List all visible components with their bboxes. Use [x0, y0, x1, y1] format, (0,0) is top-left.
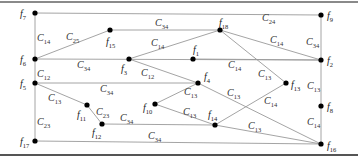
edge-label: C34	[155, 17, 169, 30]
edge-label: C14	[307, 116, 321, 129]
edge-label-subscript: 13	[255, 126, 262, 133]
node-label-subscript: 4	[207, 77, 211, 84]
node-label: f3	[121, 63, 127, 76]
node-f12	[99, 121, 104, 126]
edge-label-subscript: 23	[44, 122, 51, 129]
edge-label: C25	[66, 31, 79, 44]
edge-label: C13	[227, 87, 240, 100]
edge-label-subscript: 13	[191, 92, 198, 99]
edge-label: C34	[120, 112, 134, 125]
node-label-subscript: 13	[294, 85, 301, 92]
node-label-subscript: 15	[109, 42, 116, 49]
edge-label-subscript: 14	[277, 40, 284, 47]
edge-label: C23	[96, 106, 109, 119]
edge-f12-f14	[102, 124, 215, 125]
edge-label-subscript: 24	[269, 18, 276, 25]
node-f3	[126, 56, 131, 61]
node-label-subscript: 2	[330, 61, 333, 68]
node-label-subscript: 11	[80, 115, 86, 122]
edge-label-subscript: 13	[190, 112, 197, 119]
edge-layer	[35, 13, 321, 144]
node-label: f5	[20, 78, 26, 91]
edge-label-subscript: 13	[234, 93, 241, 100]
edge-label-subscript: 13	[265, 74, 272, 81]
node-label: f13	[291, 79, 300, 92]
edge-label: C13	[48, 92, 61, 105]
edge-label-subscript: 13	[314, 86, 321, 93]
node-label-subscript: 14	[211, 115, 218, 122]
diagram-frame: C24C14C25C34C34C14C14C34C12C14C13C12C34C…	[0, 0, 358, 159]
node-f5	[32, 80, 37, 85]
node-label: f16	[327, 140, 337, 153]
edge-label-subscript: 34	[155, 136, 162, 143]
node-label: f14	[208, 109, 218, 122]
edge-label-subscript: 14	[271, 101, 278, 108]
node-f1	[190, 56, 195, 61]
node-f16	[318, 141, 323, 146]
node-label-subscript: 6	[23, 60, 27, 67]
node-f15	[107, 27, 112, 32]
node-label-subscript: 18	[222, 23, 229, 30]
edge-label-subscript: 34	[84, 65, 91, 72]
node-f13	[283, 80, 288, 85]
node-label-subscript: 10	[146, 108, 153, 115]
node-label: f7	[20, 8, 27, 21]
node-f8	[318, 103, 323, 108]
edge-label: C23	[37, 116, 50, 129]
node-label: f8	[327, 101, 333, 114]
edge-label-subscript: 34	[313, 42, 320, 49]
edge-label: C13	[307, 80, 320, 93]
edge-label-subscript: 12	[44, 74, 51, 81]
node-label-subscript: 9	[330, 16, 333, 23]
node-label-subscript: 7	[23, 14, 27, 21]
node-label: f6	[20, 54, 27, 67]
edge-f17-f16	[35, 141, 321, 144]
node-f9	[318, 12, 323, 17]
edge-f14-f16	[215, 125, 321, 144]
node-label-subscript: 8	[330, 107, 333, 114]
edge-label-subscript: 12	[148, 73, 155, 80]
edge-label-subscript: 23	[103, 112, 110, 119]
node-f17	[32, 138, 37, 143]
node-label-subscript: 16	[330, 146, 337, 153]
node-f4	[195, 80, 200, 85]
node-label: f10	[143, 102, 152, 115]
edge-label: C13	[183, 106, 196, 119]
edge-label: C14	[37, 32, 51, 45]
graph-diagram: C24C14C25C34C34C14C14C34C12C14C13C12C34C…	[0, 0, 358, 159]
node-f11	[84, 102, 89, 107]
edge-label: C13	[184, 86, 197, 99]
node-label: f1	[193, 44, 199, 57]
edge-label: C14	[228, 59, 242, 72]
node-label-subscript: 5	[23, 84, 26, 91]
edge-label-subscript: 14	[235, 65, 242, 72]
edge-f3-f18	[129, 30, 220, 59]
node-f10	[152, 101, 157, 106]
edge-label-subscript: 34	[127, 118, 134, 125]
node-f7	[32, 10, 37, 15]
edge-f4-f16	[198, 83, 321, 144]
node-label: f9	[327, 10, 333, 23]
edge-label: C34	[306, 36, 320, 49]
node-label: f15	[106, 36, 115, 49]
edge-label: C14	[264, 95, 278, 108]
edge-label-subscript: 13	[55, 98, 62, 105]
node-label: f17	[20, 136, 30, 149]
node-label: f4	[204, 71, 211, 84]
edge-label-subscript: 14	[314, 122, 321, 129]
node-label: f2	[327, 55, 333, 68]
edge-label: C13	[248, 120, 261, 133]
edge-label-subscript: 34	[107, 89, 114, 96]
edge-label: C34	[148, 130, 162, 143]
edge-label: C14	[270, 34, 284, 47]
edge-label: C24	[262, 12, 276, 25]
node-label: f12	[92, 127, 101, 140]
node-label-subscript: 3	[124, 69, 127, 76]
edge-label: C34	[77, 59, 91, 72]
node-label: f11	[77, 109, 86, 122]
node-label-subscript: 17	[23, 142, 30, 149]
edge-f3-f4	[129, 59, 198, 83]
edge-label: C12	[141, 67, 154, 80]
edge-label: C12	[37, 68, 50, 81]
node-label-subscript: 1	[196, 50, 199, 57]
